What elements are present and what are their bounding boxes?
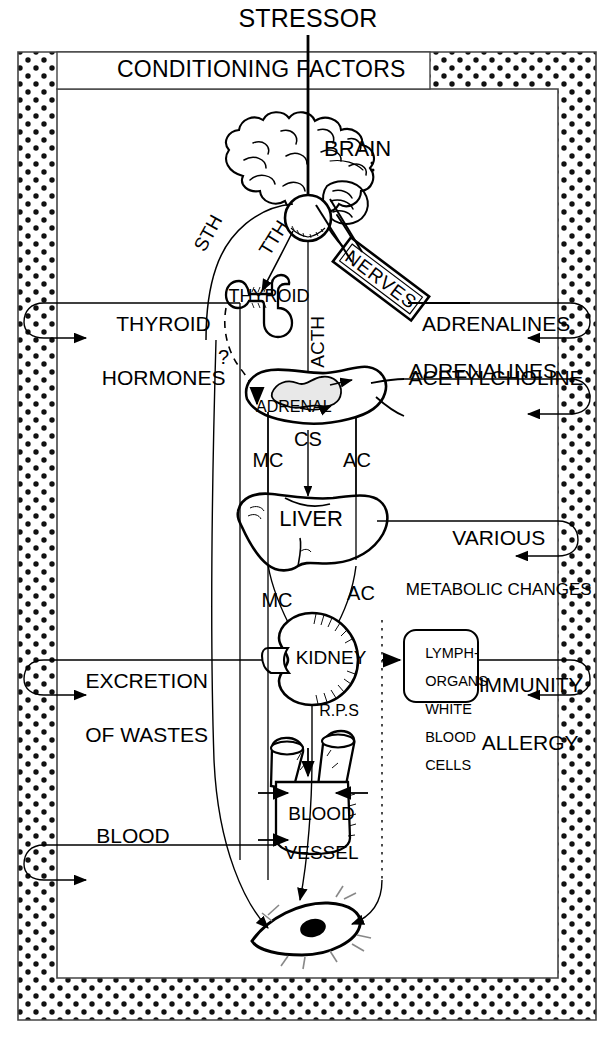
right-output-3-line1: IMMUNITY [479,673,583,696]
adrenal-mc-label: MC [252,450,283,470]
left-output-1-line2: OF WASTES [85,723,208,746]
target-cell [252,886,371,969]
rps-label: R.P.S [319,703,359,719]
left-output-blood: BLOOD [96,825,170,846]
right-output-adrenalines: ADRENALINES [409,360,557,381]
adrenal-cs-label: CS [294,429,322,449]
left-output-thyroid-hormones: THYROID HORMONES [78,283,225,418]
kidney-mc-label: MC [261,590,292,610]
stressor-label: STRESSOR [238,6,377,32]
right-output-0-line1: ADRENALINES [422,312,570,335]
kidney-ac-label: AC [347,583,375,603]
right-output-2-line2: METABOLIC CHANGES [406,580,592,599]
left-output-excretion-of-wastes: EXCRETION OF WASTES [62,640,208,775]
diagram-canvas: STRESSOR CONDITIONING FACTORS BRAIN STH … [0,0,616,1037]
thyroid-label: THYROID [229,287,310,305]
right-output-2-line1: VARIOUS [452,526,545,549]
right-output-adrenalines-acetylcholine: ADRENALINES ACETYLCHOLINE [386,283,583,418]
conditioning-factors-label: CONDITIONING FACTORS [117,58,406,81]
blood-vessel-line2: VESSEL [285,842,359,863]
blood-vessel-line1: BLOOD [288,803,355,824]
thyroid-organ [226,275,292,337]
blood-vessel-label: BLOOD VESSEL [263,785,358,882]
liver-label: LIVER [279,508,343,530]
right-output-3-line2: ALLERGY [482,731,579,754]
brain-label: BRAIN [324,138,391,160]
acth-label: ACTH [308,316,327,368]
right-output-metabolic-changes: VARIOUS METABOLIC CHANGES [382,500,591,627]
left-output-1-line1: EXCRETION [85,669,208,692]
right-output-immunity-allergy: IMMUNITY ALLERGY [455,641,582,786]
adrenal-label: ADRENAL [256,399,332,415]
adrenal-ac-label: AC [343,450,371,470]
left-output-0-line1: THYROID [116,312,211,335]
left-output-0-line2: HORMONES [102,366,226,389]
kidney-label: KIDNEY [296,648,367,667]
